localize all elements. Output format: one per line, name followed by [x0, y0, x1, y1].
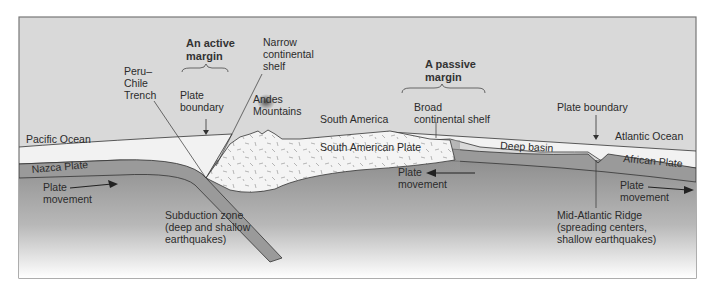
atlantic-ocean-label: Atlantic Ocean	[615, 130, 683, 142]
pacific-ocean-label: Pacific Ocean	[26, 133, 91, 145]
plate-tectonics-diagram: An active margin A passive margin Peru– …	[0, 0, 716, 293]
south-american-plate-label: South American Plate	[320, 141, 421, 153]
south-america-label: South America	[320, 113, 388, 125]
plate-boundary-right-label: Plate boundary	[557, 101, 628, 113]
mid-atlantic-ridge-label: Mid-Atlantic Ridge (spreading centers, s…	[557, 209, 656, 245]
